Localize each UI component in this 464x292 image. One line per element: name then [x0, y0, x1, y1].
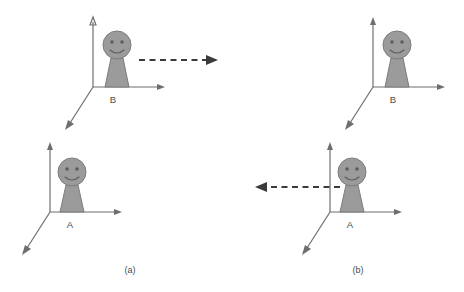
- person-figure-b-b: [383, 31, 411, 87]
- frame-label-b: B: [110, 94, 116, 105]
- frame-b-upper-b: B: [345, 17, 445, 130]
- person-head: [383, 31, 411, 59]
- x-axis-arrowhead: [114, 209, 122, 215]
- motion-arrow-left: [255, 182, 340, 192]
- frame-b-upper-a: B: [65, 17, 165, 130]
- panel-caption-b: (b): [353, 265, 364, 275]
- motion-arrow-right: [139, 55, 218, 65]
- y-axis-arrowhead: [47, 142, 53, 150]
- panel-b: B A: [255, 17, 445, 275]
- z-axis-line: [307, 212, 330, 248]
- person-right-eye: [120, 40, 124, 44]
- figure-canvas: B A: [0, 0, 464, 292]
- person-head: [103, 31, 131, 59]
- person-right-eye: [355, 167, 359, 171]
- person-left-eye: [110, 40, 114, 44]
- frame-a-lower-b: A: [302, 142, 402, 255]
- panel-caption-a: (a): [125, 265, 136, 275]
- person-head: [58, 158, 86, 186]
- person-right-eye: [75, 167, 79, 171]
- person-body: [385, 58, 409, 87]
- person-figure-b-a: [103, 31, 131, 87]
- z-axis-arrowhead: [345, 120, 354, 130]
- panel-a: B A: [22, 17, 218, 275]
- person-right-eye: [400, 40, 404, 44]
- z-axis-line: [70, 87, 93, 123]
- motion-arrow-head: [255, 182, 267, 192]
- person-left-eye: [345, 167, 349, 171]
- z-axis-arrowhead: [302, 245, 311, 255]
- z-axis-arrowhead: [22, 245, 31, 255]
- person-body: [105, 58, 129, 87]
- y-axis-arrowhead: [370, 17, 376, 25]
- frame-a-lower-a: A: [22, 142, 122, 255]
- person-body: [60, 185, 84, 212]
- frame-label-b: B: [390, 94, 396, 105]
- person-figure-a-a: [58, 158, 86, 212]
- person-left-eye: [65, 167, 69, 171]
- frame-label-a: A: [347, 219, 354, 230]
- person-left-eye: [390, 40, 394, 44]
- x-axis-arrowhead: [394, 209, 402, 215]
- person-figure-a-b: [338, 158, 366, 212]
- person-body: [340, 185, 364, 212]
- z-axis-line: [350, 87, 373, 123]
- person-head: [338, 158, 366, 186]
- y-axis-arrowhead: [327, 142, 333, 150]
- frame-label-a: A: [67, 219, 74, 230]
- z-axis-arrowhead: [65, 120, 74, 130]
- coordinate-frames-diagram: B A: [0, 0, 464, 292]
- motion-arrow-head: [206, 55, 218, 65]
- x-axis-arrowhead: [157, 84, 165, 90]
- x-axis-arrowhead: [437, 84, 445, 90]
- z-axis-line: [27, 212, 50, 248]
